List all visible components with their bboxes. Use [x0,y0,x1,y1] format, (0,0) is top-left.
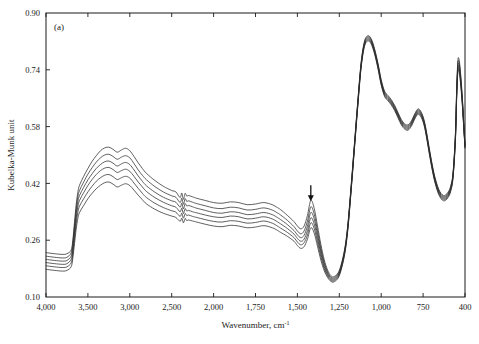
figure-container: 4,0003,5003,0002,5002,0001,7501,5001,250… [0,0,479,344]
annotation-down-arrow [308,185,314,201]
spectra-curves-layer [46,36,465,283]
x-tick-label-4000: 4,000 [36,302,55,312]
y-tick-label-0.42: 0.42 [25,179,40,189]
x-tick-label-1000: 1,000 [372,302,391,312]
annotation-layer [308,185,314,201]
y-tick-label-0.58: 0.58 [25,122,40,132]
spectrum-curve-spectrum-6-bottom [46,41,465,282]
x-tick-label-3000: 3,000 [120,302,139,312]
arrow-head-icon [308,195,314,201]
axes-layer [46,13,465,297]
x-tick-label-750: 750 [417,302,430,312]
x-axis-title: Wavenumber, cm-1 [222,320,290,331]
spectrum-curve-spectrum-5 [46,40,465,281]
labels-layer: 4,0003,5003,0002,5002,0001,7501,5001,250… [6,8,471,330]
spectrum-curve-spectrum-3 [46,38,465,279]
x-tick-label-2500: 2,500 [162,302,181,312]
x-tick-label-3500: 3,500 [78,302,97,312]
spectra-chart: 4,0003,5003,0002,5002,0001,7501,5001,250… [0,0,479,344]
spectrum-curve-spectrum-2 [46,37,465,278]
y-tick-label-0.10: 0.10 [25,292,40,302]
y-tick-label-0.26: 0.26 [25,235,40,245]
spectrum-curve-spectrum-4 [46,39,465,280]
x-tick-label-1750: 1,750 [246,302,265,312]
x-tick-label-1250: 1,250 [330,302,349,312]
plot-frame [46,13,465,297]
x-axis-title-superscript: -1 [284,320,289,326]
y-axis-title: Kubelka-Munk unit [6,119,16,191]
spectrum-curve-spectrum-1-top [46,36,465,277]
y-tick-label-0.90: 0.90 [25,8,40,18]
x-tick-label-400: 400 [459,302,472,312]
y-tick-label-0.74: 0.74 [25,65,41,75]
x-tick-label-1500: 1,500 [288,302,307,312]
x-tick-label-2000: 2,000 [204,302,223,312]
panel-label: (a) [54,22,64,32]
